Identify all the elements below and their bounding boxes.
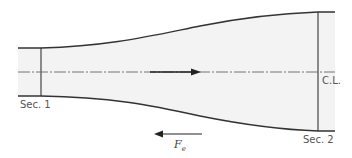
duct-diagram xyxy=(0,0,352,158)
force-arrow-icon xyxy=(154,131,163,138)
force-label: Fe xyxy=(174,138,186,153)
section2-label: Sec. 2 xyxy=(303,134,334,145)
centerline-label: C.L. xyxy=(322,75,341,86)
force-symbol: F xyxy=(174,138,182,151)
force-subscript: e xyxy=(182,145,186,153)
section1-label: Sec. 1 xyxy=(20,99,51,110)
